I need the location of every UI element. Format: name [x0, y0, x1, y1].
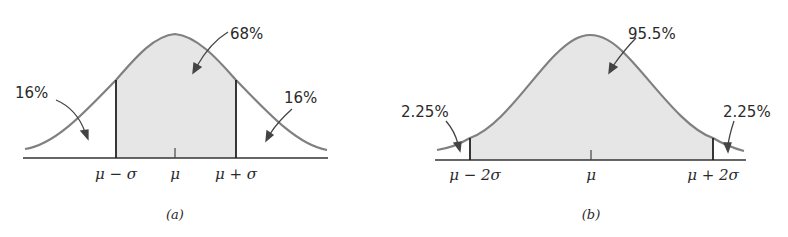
axis-label-mu-minus-sigma: μ − σ: [95, 165, 138, 183]
label-left-2-25-percent: 2.25%: [401, 103, 449, 121]
panel-a: 68% 16% 16% μ − σ μ μ + σ (a): [15, 25, 328, 222]
label-right-16-percent: 16%: [284, 89, 317, 107]
label-left-16-percent: 16%: [15, 84, 48, 102]
label-right-2-25-percent: 2.25%: [723, 103, 771, 121]
axis-label-mu-b: μ: [586, 166, 596, 184]
label-95-5-percent: 95.5%: [628, 25, 676, 43]
panel-b: 95.5% 2.25% 2.25% μ − 2σ μ μ + 2σ (b): [401, 25, 771, 222]
caption-b: (b): [582, 207, 600, 222]
axis-label-mu-plus-2sigma: μ + 2σ: [687, 166, 739, 184]
caption-a: (a): [166, 207, 184, 222]
normal-distribution-figure: 68% 16% 16% μ − σ μ μ + σ (a) 95.5% 2.25…: [0, 0, 788, 237]
shaded-region-2sigma: [470, 35, 713, 160]
label-68-percent: 68%: [230, 25, 263, 43]
axis-label-mu-minus-2sigma: μ − 2σ: [449, 166, 501, 184]
shaded-region-1sigma: [116, 34, 236, 158]
axis-label-mu-plus-sigma: μ + σ: [215, 165, 258, 183]
axis-label-mu-a: μ: [170, 165, 180, 183]
